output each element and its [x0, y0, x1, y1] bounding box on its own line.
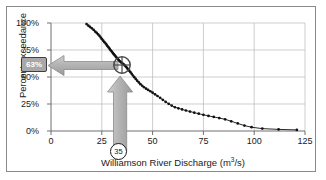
data-point	[202, 113, 205, 116]
data-point	[197, 112, 200, 115]
discharge-callout: 35	[110, 143, 127, 160]
data-point	[185, 109, 188, 112]
data-point	[177, 107, 180, 110]
x-axis-title: Williamson River Discharge (m3/s)	[40, 157, 306, 168]
data-point	[156, 95, 159, 98]
data-point	[250, 126, 253, 129]
x-tick-label-75: 75	[188, 136, 218, 146]
data-point	[218, 117, 221, 120]
chart-figure: 100% 75% 50% 25% 0% 0 25 50 75 100 125 P…	[0, 0, 326, 180]
x-tick-label-0: 0	[36, 136, 66, 146]
x-tick-marks	[51, 131, 305, 135]
x-tick-label-50: 50	[138, 136, 168, 146]
flow-duration-chart	[0, 0, 326, 180]
data-point	[212, 116, 215, 119]
data-point	[154, 93, 157, 96]
data-point	[243, 124, 246, 127]
data-point	[164, 100, 167, 103]
data-point	[296, 129, 299, 132]
data-point	[167, 102, 170, 105]
data-point	[261, 127, 264, 130]
data-point	[236, 122, 239, 125]
x-tick-label-100: 100	[239, 136, 269, 146]
data-point	[161, 98, 164, 101]
y-tick-marks	[47, 23, 51, 131]
y-tick-label-0: 0%	[5, 126, 39, 136]
x-axis-title-tail: /s)	[234, 157, 245, 168]
data-point	[189, 110, 192, 113]
data-point	[149, 90, 152, 93]
x-tick-label-125: 125	[290, 136, 320, 146]
data-point	[277, 128, 280, 131]
exceedance-marker	[114, 57, 130, 73]
data-point	[193, 111, 196, 114]
data-point	[159, 96, 162, 99]
data-point	[207, 115, 210, 118]
discharge-callout-label: 35	[114, 148, 122, 156]
data-point	[174, 106, 177, 109]
data-point	[151, 91, 154, 94]
data-point	[224, 118, 227, 121]
data-point	[170, 104, 173, 107]
data-point	[230, 120, 233, 123]
percent-exceedance-callout-label: 63%	[26, 61, 42, 69]
data-point	[181, 108, 184, 111]
percent-exceedance-callout: 63%	[21, 57, 47, 72]
